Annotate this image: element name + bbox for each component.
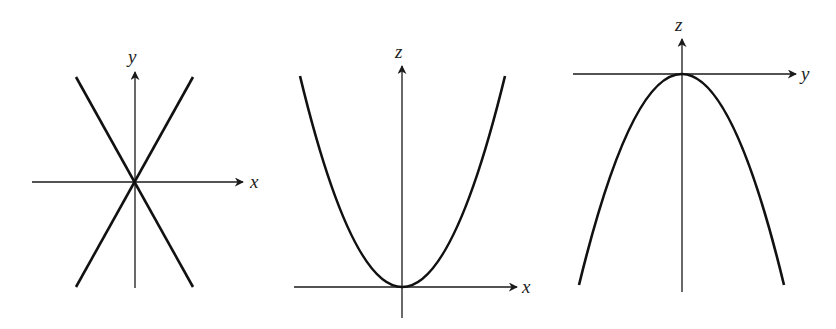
panel-crossing-lines: y x (32, 46, 259, 288)
vertical-axis-label: z (674, 14, 683, 35)
horizontal-axis-label: x (249, 171, 259, 192)
panel-parabola-down: z y (573, 14, 810, 292)
vertical-axis-label: y (126, 46, 137, 67)
horizontal-axis-label: y (799, 63, 810, 84)
horizontal-axis-label: x (521, 276, 531, 297)
vertical-axis-label: z (394, 41, 403, 62)
panel-parabola-up: z x (294, 41, 531, 318)
figure-canvas: y x z x z y (0, 0, 836, 329)
